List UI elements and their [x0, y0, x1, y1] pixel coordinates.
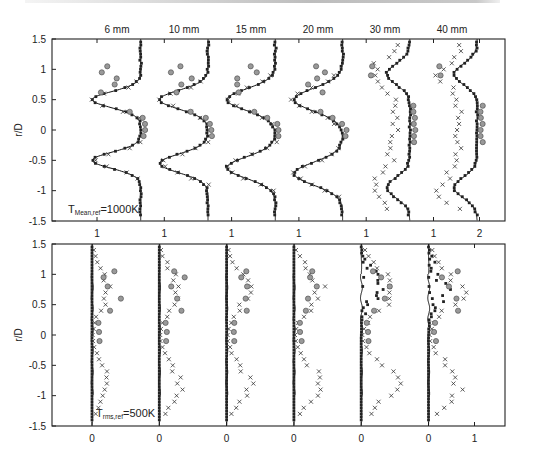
square-marker [91, 394, 94, 397]
cross-marker [239, 369, 243, 373]
cross-marker [97, 357, 101, 361]
circle-marker [179, 308, 184, 313]
square-marker [293, 279, 296, 282]
square-marker [158, 409, 161, 412]
cross-marker [235, 266, 239, 270]
square-marker [91, 361, 94, 364]
square-marker [158, 388, 161, 391]
radial-temperature-profiles-chart: 1.510.50-0.5-1-1.51111112 1.510.50-0.5-1… [0, 0, 533, 463]
cross-marker [317, 369, 321, 373]
square-marker [429, 270, 432, 273]
square-marker [177, 107, 180, 110]
square-marker [206, 68, 209, 71]
cross-marker [440, 266, 444, 270]
cross-marker [460, 110, 464, 114]
square-marker [296, 168, 299, 171]
square-marker [274, 195, 277, 198]
cross-marker [393, 104, 397, 108]
square-marker [427, 376, 430, 379]
cross-marker [455, 158, 459, 162]
square-marker [225, 346, 228, 349]
square-marker [469, 89, 472, 92]
square-marker [398, 59, 401, 62]
square-marker [274, 62, 277, 65]
square-marker [408, 153, 411, 156]
square-marker [91, 276, 94, 279]
square-marker [406, 162, 409, 165]
square-marker [275, 201, 278, 204]
cross-marker [392, 49, 396, 53]
cross-marker [367, 254, 371, 258]
square-marker [91, 403, 94, 406]
square-marker [225, 315, 228, 318]
cross-marker [309, 303, 313, 307]
circle-marker [182, 275, 187, 280]
square-marker [430, 267, 433, 270]
square-marker [139, 53, 142, 56]
circle-marker [142, 121, 147, 126]
square-marker [91, 397, 94, 400]
square-marker [225, 294, 228, 297]
square-marker [391, 65, 394, 68]
cross-marker [380, 363, 384, 367]
cross-marker [440, 309, 444, 313]
x-tick-label: 1 [229, 228, 235, 239]
square-marker [254, 180, 257, 183]
square-marker [274, 204, 277, 207]
circle-marker [175, 296, 180, 301]
square-marker [139, 74, 142, 77]
circle-marker [203, 115, 208, 120]
square-marker [139, 41, 142, 44]
circle-marker [432, 320, 437, 325]
square-marker [433, 309, 436, 312]
square-marker [377, 273, 380, 276]
square-marker [360, 249, 363, 252]
circle-marker [142, 127, 147, 132]
square-marker [293, 397, 296, 400]
cross-marker [171, 278, 175, 282]
square-marker [293, 388, 296, 391]
square-marker [158, 361, 161, 364]
cross-marker [368, 315, 372, 319]
square-marker [114, 89, 117, 92]
circle-marker [232, 338, 237, 343]
square-marker [365, 300, 368, 303]
square-marker [475, 41, 478, 44]
square-marker [140, 62, 143, 65]
square-marker [360, 376, 363, 379]
column-label-40mm: 40 mm [437, 24, 468, 35]
square-marker [225, 416, 228, 419]
square-marker [387, 183, 390, 186]
square-marker [273, 132, 276, 135]
cross-marker [104, 375, 108, 379]
square-marker [430, 315, 433, 318]
cross-marker [453, 104, 457, 108]
square-marker [475, 50, 478, 53]
square-marker [293, 288, 296, 291]
cross-marker [387, 291, 391, 295]
cross-marker [459, 49, 463, 53]
square-marker [185, 110, 188, 113]
square-marker [245, 177, 248, 180]
square-marker [293, 406, 296, 409]
square-marker [225, 300, 228, 303]
square-marker [475, 156, 478, 159]
square-marker [158, 315, 161, 318]
square-marker [293, 364, 296, 367]
square-marker [158, 291, 161, 294]
cross-marker [316, 297, 320, 301]
square-marker [91, 388, 94, 391]
square-marker [427, 349, 430, 352]
y-tick-label: -0.5 [29, 360, 47, 371]
circle-marker [244, 308, 249, 313]
cross-marker [432, 345, 436, 349]
circle-marker [455, 269, 460, 274]
cross-marker [319, 388, 323, 392]
circle-marker [209, 127, 214, 132]
y-tick-label: 0 [40, 330, 46, 341]
profile-column-6mm [91, 244, 124, 425]
cross-marker [332, 122, 336, 126]
circle-marker [235, 82, 240, 87]
profile-column-40mm [434, 39, 486, 220]
square-marker [362, 276, 365, 279]
